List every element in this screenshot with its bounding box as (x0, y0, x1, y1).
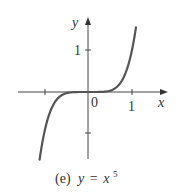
chart: y 1 0 1 x (e) y = x 5 (0, 0, 188, 192)
x-tick-label-0: 0 (91, 95, 98, 110)
caption: (e) y = x 5 (55, 169, 118, 187)
y-axis-arrow-icon (85, 17, 91, 25)
y-axis-label: y (70, 15, 79, 30)
x-axis-label: x (157, 95, 165, 110)
x-tick-label-1: 1 (128, 99, 135, 114)
y-tick-label-1: 1 (74, 43, 81, 58)
